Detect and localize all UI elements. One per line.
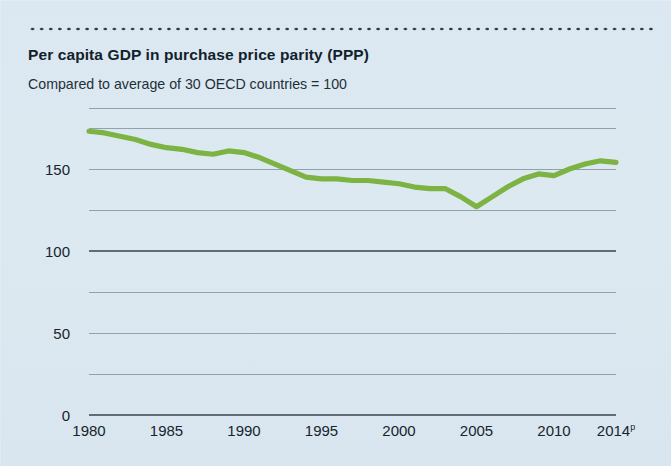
x-tick-label: 2014p [597,422,635,439]
figure-background: Per capita GDP in purchase price parity … [0,0,671,466]
y-tick-label: 150 [6,161,70,178]
x-tick-label: 2010 [537,422,570,439]
x-tick-label: 1980 [72,422,105,439]
x-tick-label: 2000 [382,422,415,439]
chart-svg [0,0,671,466]
x-tick-label: 1985 [150,422,183,439]
x-tick-superscript: p [630,422,635,432]
x-tick-label: 1990 [227,422,260,439]
y-tick-label: 0 [6,407,70,424]
y-tick-label: 50 [6,325,70,342]
x-tick-label: 1995 [305,422,338,439]
x-tick-label: 2005 [460,422,493,439]
plot-area: 050100150 198019851990199520002005201020… [0,0,671,466]
y-tick-label: 100 [6,243,70,260]
